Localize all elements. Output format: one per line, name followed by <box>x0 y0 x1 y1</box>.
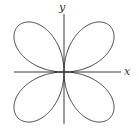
x-axis-label: x <box>124 65 131 78</box>
rose-curve-diagram: y x <box>0 0 139 135</box>
y-axis-label: y <box>58 1 66 14</box>
